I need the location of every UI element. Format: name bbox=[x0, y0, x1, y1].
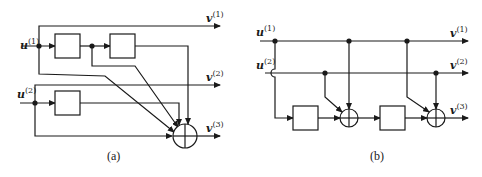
delay-box bbox=[293, 106, 318, 130]
delay-box bbox=[380, 106, 405, 130]
label-u2: u(2) bbox=[17, 86, 36, 101]
delay-box bbox=[55, 34, 80, 58]
wire bbox=[325, 73, 342, 112]
adder-xor bbox=[173, 124, 197, 148]
panel-b: u(1) u(2) v(1) v(2) v(3) (b) bbox=[256, 24, 468, 163]
adder-xor bbox=[427, 109, 445, 127]
label-u1: u(1) bbox=[256, 24, 275, 39]
convolutional-encoder-figure: u(1) u(2) v(1) v(2) v(3) (a) bbox=[0, 0, 482, 177]
panel-a: u(1) u(2) v(1) v(2) v(3) (a) bbox=[17, 10, 224, 163]
caption-a: (a) bbox=[107, 149, 120, 163]
label-v2: v(2) bbox=[450, 57, 468, 72]
wire bbox=[271, 41, 293, 118]
wire bbox=[80, 103, 179, 125]
label-v2: v(2) bbox=[206, 69, 224, 84]
label-v1: v(1) bbox=[206, 10, 224, 25]
label-v3: v(3) bbox=[450, 102, 468, 117]
delay-box bbox=[55, 91, 80, 115]
adder-xor bbox=[340, 109, 358, 127]
label-u1: u(1) bbox=[20, 37, 39, 52]
label-v3: v(3) bbox=[206, 120, 224, 135]
delay-box bbox=[110, 34, 135, 58]
caption-b: (b) bbox=[370, 149, 384, 163]
wire bbox=[39, 46, 174, 132]
wire bbox=[407, 41, 429, 112]
label-v1: v(1) bbox=[450, 25, 468, 40]
